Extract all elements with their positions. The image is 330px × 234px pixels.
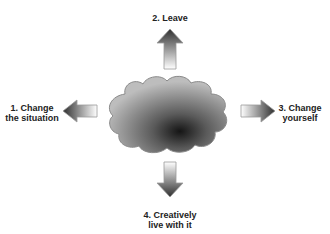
option-change-yourself-label: 3. Change yourself [272,103,328,123]
option-live-with-it-line2: live with it [130,220,210,230]
option-change-yourself-line1: 3. Change [272,103,328,113]
option-change-yourself-line2: yourself [272,113,328,123]
option-live-with-it-label: 4. Creatively live with it [130,210,210,230]
arrow-up-icon [156,28,184,71]
option-leave-label: 2. Leave [140,13,200,23]
option-change-situation-label: 1. Change the situation [2,103,62,123]
option-leave-line1: 2. Leave [140,13,200,23]
option-live-with-it-line1: 4. Creatively [130,210,210,220]
arrow-right-icon [239,99,276,123]
arrow-left-icon [62,99,99,123]
arrow-down-icon [156,161,184,198]
problem-cloud [105,72,231,156]
option-change-situation-line2: the situation [2,113,62,123]
option-change-situation-line1: 1. Change [2,103,62,113]
